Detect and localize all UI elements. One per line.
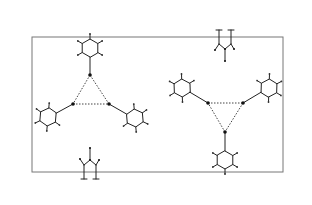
hydrogen-atom xyxy=(146,109,148,111)
fragment-atom xyxy=(233,48,235,50)
fragment-atom xyxy=(98,159,100,161)
hydrogen-atom xyxy=(77,40,79,42)
hydrogen-atom xyxy=(268,101,270,103)
linker-bond xyxy=(56,104,73,113)
hydrogen-atom xyxy=(169,95,171,97)
fragment-atom xyxy=(224,60,226,62)
hydrogen-atom xyxy=(212,166,214,168)
fragment-bond xyxy=(215,44,219,50)
top-fragment xyxy=(214,30,235,62)
hydrogen-atom xyxy=(48,102,50,104)
hydrogen-atom xyxy=(182,101,184,103)
hydrogen-atom xyxy=(147,123,149,125)
fragment-bond xyxy=(219,44,225,49)
hydrogen-atom xyxy=(46,130,48,132)
fragment-bond xyxy=(80,159,84,165)
hydrogen-atom xyxy=(135,131,137,133)
left-trimer xyxy=(34,33,148,133)
hydrogen-atom xyxy=(169,81,171,83)
hydrogen-atom xyxy=(256,80,258,82)
phenyl-ring xyxy=(82,39,98,57)
phenyl-ring xyxy=(174,79,190,97)
hydrogen-atom xyxy=(181,73,183,75)
core-atom xyxy=(241,101,245,105)
phenyl-ring xyxy=(217,151,233,169)
hydrogen-atom xyxy=(89,33,91,35)
hydrogen-atom xyxy=(236,166,238,168)
fragment-atom xyxy=(79,158,81,160)
fragment-bond xyxy=(84,160,90,165)
hydrogen-bond xyxy=(73,75,90,104)
fragment-atom xyxy=(214,49,216,51)
hydrogen-atom xyxy=(77,54,79,56)
phenyl-ring xyxy=(261,79,277,97)
molecular-motifs xyxy=(34,33,282,175)
core-atom xyxy=(71,102,75,106)
unit-cell-outline xyxy=(32,37,283,172)
linker-bond xyxy=(109,104,127,114)
hydrogen-atom xyxy=(236,152,238,154)
core-atom xyxy=(107,102,111,106)
fragment-atom xyxy=(89,147,91,149)
edge-fragments xyxy=(79,30,235,179)
bottom-fragment xyxy=(79,147,100,179)
core-atom xyxy=(88,73,92,77)
hydrogen-atom xyxy=(269,73,271,75)
right-trimer xyxy=(169,73,283,175)
hydrogen-atom xyxy=(34,122,36,124)
hydrogen-atom xyxy=(59,124,61,126)
fragment-bond xyxy=(225,44,231,49)
fragment-bond xyxy=(90,160,96,165)
linker-bond xyxy=(243,92,261,103)
phenyl-ring xyxy=(40,108,56,126)
hydrogen-atom xyxy=(133,103,135,105)
hydrogen-atom xyxy=(224,173,226,175)
hydrogen-bond xyxy=(208,103,225,132)
linker-bond xyxy=(190,92,208,103)
hydrogen-bond xyxy=(90,75,109,104)
fragment-atom xyxy=(89,159,91,161)
hydrogen-bond xyxy=(225,103,243,132)
hydrogen-atom xyxy=(212,152,214,154)
core-atom xyxy=(223,130,227,134)
hydrogen-atom xyxy=(101,54,103,56)
core-atom xyxy=(206,101,210,105)
crystal-packing-diagram xyxy=(0,0,312,205)
hydrogen-atom xyxy=(101,40,103,42)
hydrogen-atom xyxy=(123,125,125,127)
hydrogen-atom xyxy=(280,95,282,97)
hydrogen-atom xyxy=(36,108,38,110)
hydrogen-atom xyxy=(193,80,195,82)
fragment-atom xyxy=(224,48,226,50)
hydrogen-atom xyxy=(280,81,282,83)
phenyl-ring xyxy=(127,109,143,127)
